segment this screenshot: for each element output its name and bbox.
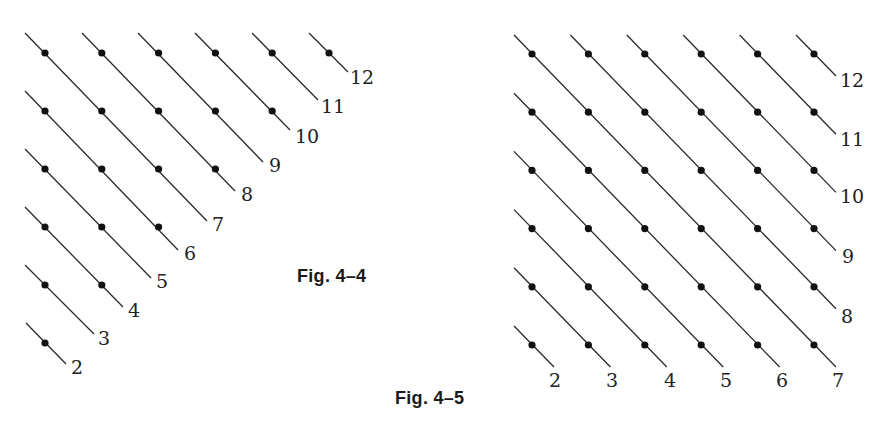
line-label: 12 (350, 66, 374, 88)
line-label: 7 (212, 213, 224, 235)
line-label: 4 (664, 369, 676, 391)
lattice-point (754, 283, 761, 290)
lattice-point (41, 339, 48, 346)
lattice-point (528, 50, 535, 57)
line-label: 7 (832, 369, 844, 391)
lattice-point (698, 225, 705, 232)
lattice-diagrams: 12111098765432 12111098765432 (0, 0, 882, 421)
lattice-point (810, 50, 817, 57)
lattice-point (155, 165, 162, 172)
figure-4-4-caption: Fig. 4–4 (297, 267, 366, 285)
lattice-point (98, 281, 105, 288)
diagonal-line-9: 9 (138, 33, 281, 176)
line-segment (627, 35, 836, 251)
lattice-point (98, 165, 105, 172)
lattice-point (810, 225, 817, 232)
lattice-point (754, 167, 761, 174)
line-label: 5 (156, 270, 168, 292)
lattice-point (528, 167, 535, 174)
lattice-point (810, 283, 817, 290)
lattice-point (641, 283, 648, 290)
lattice-point (698, 109, 705, 116)
lattice-point (754, 341, 761, 348)
lattice-point (98, 223, 105, 230)
line-segment (25, 265, 94, 334)
diagonal-line-7: 7 (25, 33, 224, 235)
lattice-point (585, 109, 592, 116)
lattice-point (41, 223, 48, 230)
lattice-point (698, 341, 705, 348)
lattice-point (269, 49, 276, 56)
lattice-point (212, 107, 219, 114)
diagonal-line-3: 3 (514, 268, 618, 391)
line-label: 6 (776, 369, 788, 391)
line-label: 2 (71, 356, 83, 378)
figure-4-5-caption: Fig. 4–5 (395, 389, 464, 407)
lattice-point (98, 107, 105, 114)
diagonal-line-12: 12 (309, 33, 374, 88)
diagonal-line-9: 9 (627, 35, 854, 267)
lattice-point (212, 49, 219, 56)
lattice-point (810, 341, 817, 348)
diagonal-line-4: 4 (514, 210, 676, 391)
lattice-point (528, 225, 535, 232)
line-label: 8 (841, 305, 853, 327)
line-label: 4 (128, 299, 140, 321)
lattice-point (585, 283, 592, 290)
line-segment (514, 151, 723, 367)
lattice-point (155, 107, 162, 114)
line-label: 11 (321, 95, 345, 117)
diagonal-line-10: 10 (195, 33, 319, 147)
lattice-point (212, 165, 219, 172)
lattice-point (641, 50, 648, 57)
line-segment (252, 33, 318, 100)
line-label: 9 (269, 154, 281, 176)
lattice-point (641, 167, 648, 174)
line-label: 10 (840, 185, 864, 207)
line-label: 11 (840, 128, 864, 150)
lattice-point (585, 50, 592, 57)
lattice-point (810, 167, 817, 174)
lattice-point (641, 341, 648, 348)
lattice-point (528, 341, 535, 348)
lattice-point (754, 109, 761, 116)
diagonal-line-5: 5 (514, 151, 732, 391)
diagonal-line-6: 6 (25, 91, 196, 264)
figure-4-5-square-lattice: 12111098765432 (514, 35, 864, 391)
diagonal-line-11: 11 (740, 35, 864, 150)
lattice-point (41, 49, 48, 56)
diagonal-line-11: 11 (252, 33, 345, 117)
lattice-point (98, 49, 105, 56)
line-label: 3 (98, 327, 110, 349)
diagonal-line-2: 2 (26, 323, 83, 378)
lattice-point (155, 49, 162, 56)
lattice-point (641, 225, 648, 232)
lattice-point (269, 107, 276, 114)
lattice-point (325, 49, 332, 56)
line-label: 10 (295, 125, 319, 147)
diagram-stage: 12111098765432 12111098765432 Fig. 4–4 F… (0, 0, 882, 421)
line-label: 3 (606, 369, 618, 391)
diagonal-line-8: 8 (570, 35, 853, 327)
lattice-point (810, 109, 817, 116)
lattice-point (585, 167, 592, 174)
lattice-point (698, 167, 705, 174)
lattice-point (155, 223, 162, 230)
line-label: 6 (184, 242, 196, 264)
line-label: 12 (840, 69, 864, 91)
line-label: 8 (241, 183, 253, 205)
line-segment (514, 268, 610, 367)
line-segment (195, 33, 290, 130)
line-label: 2 (549, 369, 561, 391)
lattice-point (754, 225, 761, 232)
lattice-point (698, 283, 705, 290)
lattice-point (528, 283, 535, 290)
line-label: 9 (842, 245, 854, 267)
diagonal-line-2: 2 (514, 326, 561, 391)
diagonal-line-12: 12 (796, 35, 864, 91)
lattice-point (585, 225, 592, 232)
figure-4-4-triangular-lattice: 12111098765432 (25, 33, 374, 378)
lattice-point (754, 50, 761, 57)
line-segment (740, 35, 836, 134)
diagonal-line-5: 5 (25, 149, 168, 292)
